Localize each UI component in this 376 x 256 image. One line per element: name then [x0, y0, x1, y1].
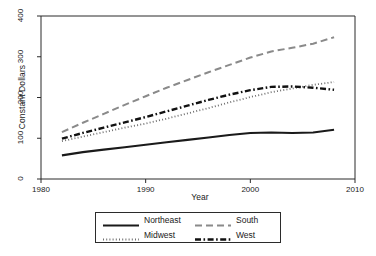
series-line-south	[62, 37, 334, 132]
data-series-layer	[62, 37, 334, 155]
y-tick-label: 400	[16, 1, 25, 31]
x-tick-label: 2000	[233, 185, 267, 194]
legend-swatch-midwest-icon	[102, 230, 140, 239]
legend-item-northeast[interactable]: Northeast	[96, 213, 188, 228]
legend-swatch-northeast-icon	[102, 216, 140, 225]
x-tick-label: 1990	[129, 185, 163, 194]
series-line-west	[62, 86, 334, 138]
series-line-northeast	[62, 130, 334, 156]
legend-label-northeast: Northeast	[144, 216, 181, 225]
legend-swatch-west-icon	[194, 230, 232, 239]
y-tick-label: 200	[16, 82, 25, 112]
legend-item-midwest[interactable]: Midwest	[96, 228, 188, 243]
legend-item-south[interactable]: South	[188, 213, 280, 228]
x-axis-ticks	[41, 179, 355, 183]
legend-label-south: South	[236, 216, 258, 225]
axis-frame	[41, 16, 355, 179]
chart-legend: NortheastSouthMidwestWest	[95, 212, 281, 243]
y-tick-label: 100	[16, 123, 25, 153]
x-tick-label: 1980	[24, 185, 58, 194]
legend-label-west: West	[236, 231, 255, 240]
chart-figure: Constant Dollars Year 1980199020002010 0…	[0, 0, 376, 256]
y-axis-ticks	[37, 16, 41, 179]
y-tick-label: 0	[16, 164, 25, 194]
x-axis-title: Year	[160, 192, 240, 202]
legend-item-west[interactable]: West	[188, 228, 280, 243]
y-tick-label: 300	[16, 41, 25, 71]
legend-swatch-south-icon	[194, 216, 232, 225]
legend-label-midwest: Midwest	[144, 231, 175, 240]
x-tick-label: 2010	[338, 185, 372, 194]
